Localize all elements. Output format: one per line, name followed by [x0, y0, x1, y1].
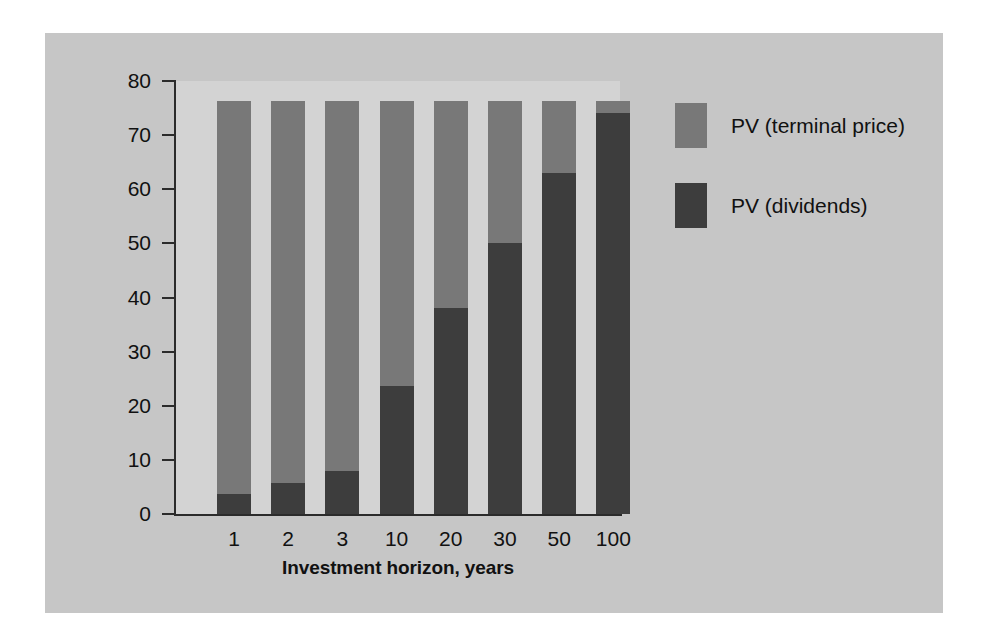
y-axis-tick-label: 20: [97, 395, 151, 416]
bar-segment-terminal-price: [271, 101, 305, 483]
y-axis-tick-label: 80: [97, 70, 151, 91]
chart-legend: PV (terminal price)PV (dividends): [675, 103, 935, 263]
bar-segment-terminal-price: [596, 101, 630, 113]
x-axis-tick-label: 10: [367, 528, 427, 549]
y-axis-tick: [162, 405, 176, 407]
bar-segment-dividends: [217, 494, 251, 514]
bar-segment-dividends: [325, 471, 359, 514]
bar-segment-terminal-price: [217, 101, 251, 494]
y-axis-tick-label: 50: [97, 232, 151, 253]
bar-group: [542, 101, 576, 514]
bar-segment-dividends: [271, 483, 305, 514]
y-axis-tick: [162, 134, 176, 136]
x-axis-tick-label: 30: [475, 528, 535, 549]
y-axis-tick: [162, 459, 176, 461]
x-axis-tick-label: 2: [258, 528, 318, 549]
bar-segment-terminal-price: [488, 101, 522, 243]
chart-figure-panel: Value per share, dollars 807060504030201…: [45, 33, 943, 613]
bar-group: [434, 101, 468, 514]
bar-segment-dividends: [596, 113, 630, 514]
bar-segment-dividends: [434, 308, 468, 514]
y-axis-tick-label: 40: [97, 287, 151, 308]
y-axis-tick: [162, 188, 176, 190]
bar-segment-terminal-price: [434, 101, 468, 308]
y-axis-tick-label: 0: [97, 503, 151, 524]
bar-segment-terminal-price: [380, 101, 414, 386]
y-axis-tick: [162, 513, 176, 515]
x-axis-tick-label: 1: [204, 528, 264, 549]
legend-item: PV (terminal price): [675, 103, 935, 149]
legend-swatch: [675, 103, 707, 148]
bar-segment-dividends: [380, 386, 414, 514]
bar-segment-terminal-price: [325, 101, 359, 471]
y-axis-tick-label: 60: [97, 178, 151, 199]
x-axis-line: [174, 514, 622, 516]
y-axis-tick: [162, 297, 176, 299]
x-axis-tick-label: 100: [583, 528, 643, 549]
bar-group: [217, 101, 251, 514]
bar-segment-dividends: [488, 243, 522, 514]
y-axis-tick-label: 30: [97, 341, 151, 362]
bar-group: [325, 101, 359, 514]
legend-label: PV (terminal price): [731, 114, 905, 137]
y-axis-tick: [162, 351, 176, 353]
legend-label: PV (dividends): [731, 194, 868, 217]
x-axis-tick-label: 3: [312, 528, 372, 549]
bar-segment-dividends: [542, 173, 576, 514]
y-axis-tick-label: 10: [97, 449, 151, 470]
y-axis-tick-label: 70: [97, 124, 151, 145]
y-axis-tick: [162, 242, 176, 244]
bar-group: [596, 101, 630, 514]
y-axis-line: [174, 81, 176, 516]
legend-swatch: [675, 183, 707, 228]
bar-segment-terminal-price: [542, 101, 576, 173]
bar-group: [488, 101, 522, 514]
x-axis-tick-label: 50: [529, 528, 589, 549]
x-axis-title: Investment horizon, years: [174, 557, 622, 579]
y-axis-tick: [162, 80, 176, 82]
bar-group: [271, 101, 305, 514]
legend-item: PV (dividends): [675, 183, 935, 229]
bar-group: [380, 101, 414, 514]
x-axis-tick-label: 20: [421, 528, 481, 549]
